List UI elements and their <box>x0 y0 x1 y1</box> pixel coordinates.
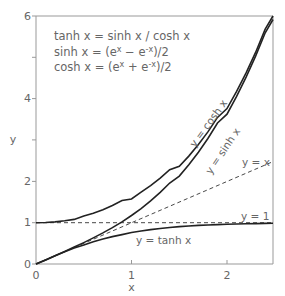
label-tanh: y = tanh x <box>136 234 191 246</box>
x-ticks <box>132 260 228 264</box>
y-tick-2: 2 <box>24 175 31 188</box>
formula-cosh: cosh x = (ex + e-x)/2 <box>54 60 172 74</box>
y-tick-4: 4 <box>24 92 31 105</box>
formula-tanh: tanh x = sinh x / cosh x <box>54 29 190 43</box>
formula-sinh: sinh x = (ex − e-x)/2 <box>54 45 169 59</box>
label-sinh: y = sinh x <box>203 126 243 177</box>
y-axis-label: y <box>10 133 17 146</box>
formula-annotations: tanh x = sinh x / cosh x sinh x = (ex − … <box>54 29 190 74</box>
x-axis-label: x <box>128 281 135 294</box>
x-tick-0: 0 <box>33 269 40 282</box>
y-tick-6: 6 <box>24 10 31 23</box>
x-tick-2: 2 <box>224 269 231 282</box>
y-tick-0: 0 <box>24 258 31 271</box>
y-tick-1: 1 <box>24 216 31 229</box>
y-ticks <box>32 16 36 264</box>
chart-svg: 6 4 2 1 0 0 1 2 x y tanh x = sinh x / co… <box>0 0 285 296</box>
label-y-equals-x: y = x <box>242 156 270 168</box>
label-y-equals-1: y = 1 <box>241 210 269 222</box>
